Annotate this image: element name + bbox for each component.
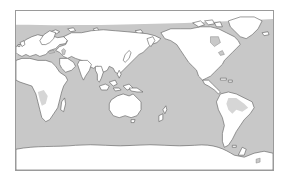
world-map (15, 10, 274, 171)
antarctic-ice-shelf (256, 158, 260, 163)
map-canvas (16, 11, 273, 170)
falkland-islands (232, 145, 236, 147)
tasmania (131, 120, 135, 123)
